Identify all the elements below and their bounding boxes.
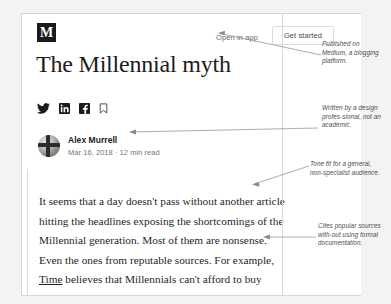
linkedin-icon[interactable] (59, 103, 70, 114)
medium-topbar: M Open in app Get started (22, 14, 361, 54)
body-text-after-link: believes that Millennials can't afford t… (39, 273, 262, 296)
screenshot-root: M Open in app Get started The Millennial… (0, 0, 391, 304)
twitter-icon[interactable] (37, 103, 50, 114)
byline: Alex Murrell Mar 16, 2018 · 12 min read (38, 135, 160, 157)
open-in-app-link[interactable]: Open in app (216, 33, 258, 42)
bookmark-icon[interactable] (99, 103, 108, 114)
page-right-rule (282, 13, 283, 296)
time-link[interactable]: Time (39, 273, 62, 285)
annotation-published-on-medium: Published on Medium, a blogging platform… (322, 40, 386, 66)
author-name[interactable]: Alex Murrell (68, 135, 160, 146)
article-card: M Open in app Get started The Millennial… (21, 13, 361, 296)
annotation-written-by-design-professional: Written by a design profes-sional, not a… (322, 104, 386, 130)
annotation-tone-general-audience: Tone fit for a general, non-specialist a… (310, 160, 380, 177)
body-text-before-link: It seems that a day doesn't pass without… (39, 195, 285, 266)
article-body: It seems that a day doesn't pass without… (39, 192, 291, 296)
article-title: The Millennial myth (36, 51, 231, 78)
facebook-icon[interactable] (79, 103, 90, 114)
body-left-rule (27, 169, 28, 296)
medium-logo-icon[interactable]: M (37, 23, 56, 42)
avatar[interactable] (38, 135, 60, 157)
annotation-cites-popular-sources: Cites popular sources with-out using for… (318, 222, 386, 248)
share-icon-row (37, 103, 108, 114)
article-meta: Mar 16, 2018 · 12 min read (68, 148, 160, 157)
